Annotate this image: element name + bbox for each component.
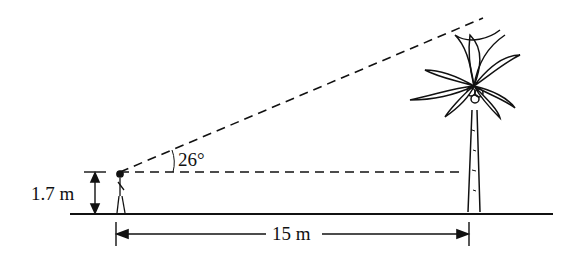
eye-height-label: 1.7 m — [31, 184, 74, 203]
distance-label: 15 m — [272, 224, 311, 243]
angle-arc — [172, 150, 174, 172]
diagram-canvas — [0, 0, 574, 257]
observer-figure — [117, 171, 125, 213]
palm-tree — [410, 30, 520, 212]
angle-label: 26° — [178, 150, 205, 169]
